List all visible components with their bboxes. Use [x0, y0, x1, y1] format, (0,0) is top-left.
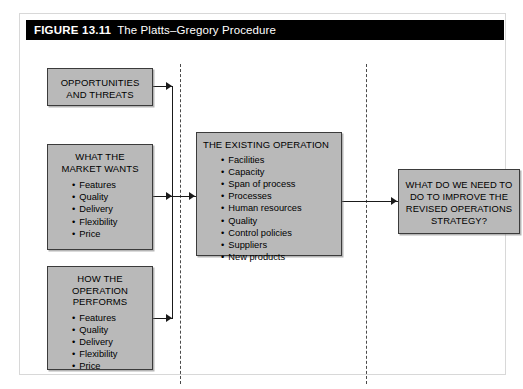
dashed-divider-right — [366, 64, 367, 384]
list-item: New products — [221, 251, 341, 263]
list-item: Features — [72, 312, 152, 324]
connector-existing-to-question — [342, 201, 398, 202]
list-item: Price — [72, 228, 152, 240]
list-item: Price — [72, 360, 152, 372]
list-item: Quality — [72, 191, 152, 203]
box-how-the-operation-performs: HOW THE OPERATION PERFORMS FeaturesQuali… — [47, 266, 153, 370]
box-market-list: FeaturesQualityDeliveryFlexibilityPrice — [48, 179, 152, 240]
list-item: Delivery — [72, 336, 152, 348]
figure-title-text: The Platts–Gregory Procedure — [117, 24, 276, 36]
box-opportunities-heading: OPPORTUNITIES AND THREATS — [48, 69, 152, 100]
list-item: Delivery — [72, 203, 152, 215]
list-item: Human resources — [221, 202, 341, 214]
list-item: Features — [72, 179, 152, 191]
box-existing-operation-list: FacilitiesCapacitySpan of processProcess… — [197, 154, 341, 264]
list-item: Quality — [221, 215, 341, 227]
box-operation-performs-list: FeaturesQualityDeliveryFlexibilityPrice — [48, 312, 152, 373]
list-item: Control policies — [221, 227, 341, 239]
dashed-divider-left — [180, 64, 181, 384]
list-item: Quality — [72, 324, 152, 336]
box-question-improve-strategy: WHAT DO WE NEED TO DO TO IMPROVE THE REV… — [398, 169, 520, 234]
arrowhead-existing-operation-icon — [189, 192, 195, 200]
figure-frame: FIGURE 13.11 The Platts–Gregory Procedur… — [19, 13, 506, 375]
box-opportunities-and-threats: OPPORTUNITIES AND THREATS — [47, 68, 153, 106]
list-item: Facilities — [221, 154, 341, 166]
list-item: Span of process — [221, 178, 341, 190]
box-question-heading: WHAT DO WE NEED TO DO TO IMPROVE THE REV… — [399, 170, 519, 227]
list-item: Flexibility — [72, 216, 152, 228]
figure-number-label: FIGURE 13.11 — [34, 24, 111, 36]
connector-spine — [172, 86, 173, 319]
box-the-existing-operation: THE EXISTING OPERATION FacilitiesCapacit… — [196, 132, 342, 256]
list-item: Suppliers — [221, 239, 341, 251]
box-existing-operation-heading: THE EXISTING OPERATION — [197, 133, 341, 151]
box-market-heading: WHAT THE MARKET WANTS — [48, 145, 152, 174]
box-what-the-market-wants: WHAT THE MARKET WANTS FeaturesQualityDel… — [47, 144, 153, 250]
arrowhead-question-icon — [391, 197, 397, 205]
list-item: Processes — [221, 190, 341, 202]
list-item: Flexibility — [72, 348, 152, 360]
list-item: Capacity — [221, 166, 341, 178]
figure-title-bar: FIGURE 13.11 The Platts–Gregory Procedur… — [26, 20, 504, 40]
box-operation-performs-heading: HOW THE OPERATION PERFORMS — [48, 267, 152, 308]
